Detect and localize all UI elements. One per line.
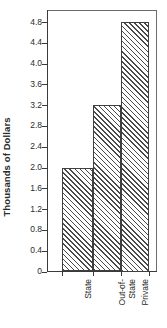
x-axis-tick-mark [62,272,63,276]
x-axis-category-label-line: State [83,279,93,325]
bar-out-of-state [93,105,121,271]
x-axis-category-label-line: Private [140,279,150,325]
x-axis-category-label-line: State [127,279,137,325]
x-axis-category-label: Out-of-State [117,279,139,325]
bar-chart: Thousands of Dollars 00.40.81.21.62.02.4… [0,0,167,328]
x-axis-tick-mark [149,272,150,276]
bars-layer: StateOut-of-StatePrivate [0,0,167,328]
bar-state [62,168,93,272]
x-axis-category-label-line: Out-of- [117,279,127,325]
x-axis-category-label: State [83,279,105,325]
bar-private [121,22,149,272]
x-axis-category-label: Private [140,279,162,325]
x-axis-tick-mark [93,272,94,276]
x-axis-tick-mark [121,272,122,276]
